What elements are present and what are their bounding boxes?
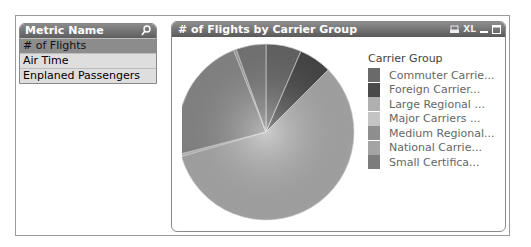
- legend-swatch: [368, 155, 380, 169]
- legend-item[interactable]: Foreign Carrier...: [368, 83, 495, 98]
- legend-title: Carrier Group: [368, 52, 495, 68]
- legend-swatch: [368, 126, 380, 140]
- chart-header: # of Flights by Carrier Group XL: [172, 22, 505, 37]
- pie-chart[interactable]: [182, 42, 362, 222]
- xl-export-icon[interactable]: XL: [463, 24, 476, 34]
- chart-legend: Carrier Group Commuter Carrie...Foreign …: [368, 52, 495, 170]
- legend-label: Large Regional ...: [389, 98, 485, 111]
- legend-swatch: [368, 97, 380, 111]
- listbox-item-flights[interactable]: # of Flights: [20, 38, 156, 53]
- legend-item[interactable]: Small Certifica...: [368, 155, 495, 170]
- listbox-title: Metric Name: [25, 24, 104, 37]
- legend-label: Commuter Carrie...: [389, 69, 495, 82]
- metric-name-listbox[interactable]: Metric Name # of Flights Air Time Enplan…: [19, 23, 157, 84]
- legend-label: Foreign Carrier...: [389, 83, 480, 96]
- legend-label: Medium Regional...: [389, 127, 494, 140]
- listbox-header: Metric Name: [20, 24, 156, 38]
- maximize-icon[interactable]: [492, 25, 501, 34]
- legend-swatch: [368, 68, 380, 82]
- legend-item[interactable]: Large Regional ...: [368, 97, 495, 112]
- legend-label: National Carrie...: [389, 141, 482, 154]
- legend-item[interactable]: National Carrie...: [368, 141, 495, 156]
- pie-chart-object[interactable]: # of Flights by Carrier Group XL Carrier…: [171, 21, 506, 232]
- search-icon[interactable]: [141, 25, 151, 36]
- listbox-item-air-time[interactable]: Air Time: [20, 53, 156, 68]
- legend-label: Major Carriers ...: [389, 112, 480, 125]
- legend-swatch: [368, 83, 380, 97]
- legend-item[interactable]: Major Carriers ...: [368, 112, 495, 127]
- legend-item[interactable]: Commuter Carrie...: [368, 68, 495, 83]
- chart-title: # of Flights by Carrier Group: [178, 23, 357, 36]
- legend-item[interactable]: Medium Regional...: [368, 126, 495, 141]
- legend-swatch: [368, 112, 380, 126]
- listbox-item-enplaned-passengers[interactable]: Enplaned Passengers: [20, 68, 156, 83]
- print-icon[interactable]: [450, 25, 459, 34]
- legend-swatch: [368, 141, 380, 155]
- legend-label: Small Certifica...: [389, 156, 480, 169]
- minimize-icon[interactable]: [480, 25, 488, 34]
